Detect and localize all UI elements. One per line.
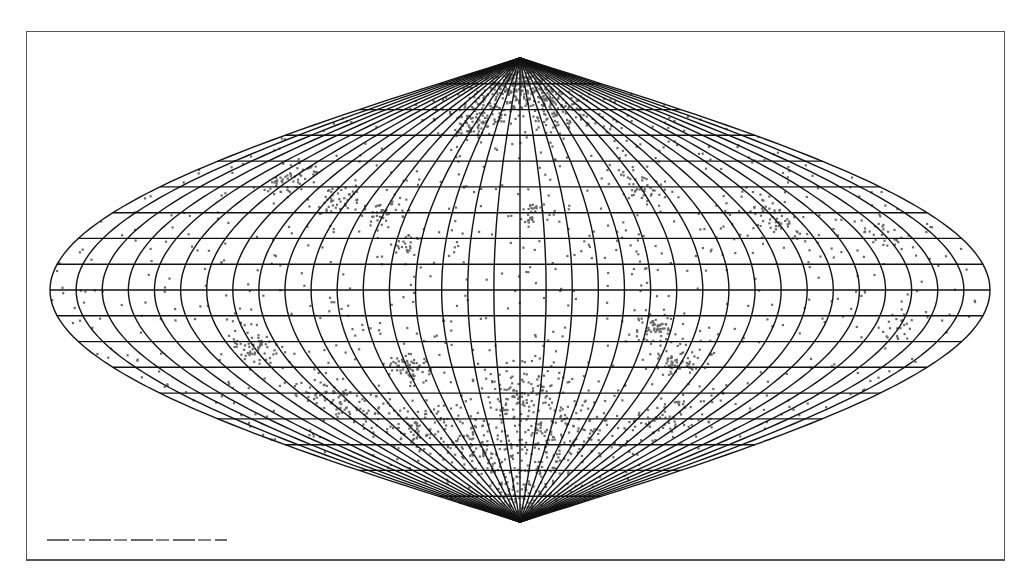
graticule	[50, 58, 990, 522]
sky-map	[0, 0, 1030, 584]
scale-rule	[47, 539, 227, 541]
